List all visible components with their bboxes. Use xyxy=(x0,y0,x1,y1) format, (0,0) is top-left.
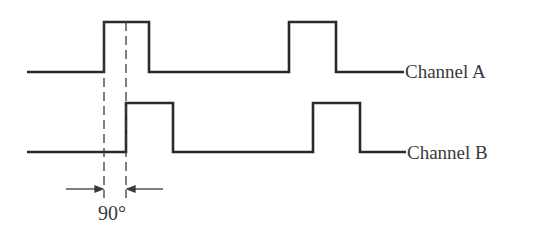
channel-b-waveform xyxy=(27,103,406,152)
channel-b-label: Channel B xyxy=(407,143,488,162)
phase-angle-label: 90° xyxy=(98,203,126,223)
arrowhead-left-icon xyxy=(127,186,135,192)
channel-a-waveform xyxy=(27,22,404,72)
waveform-canvas xyxy=(0,0,534,228)
channel-a-label: Channel A xyxy=(405,62,486,81)
arrowhead-right-icon xyxy=(95,186,103,192)
timing-diagram: Channel A Channel B 90° xyxy=(0,0,534,228)
